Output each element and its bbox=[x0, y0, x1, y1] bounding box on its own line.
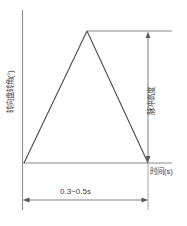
pulse-duration-label: 0.3~0.5s bbox=[60, 188, 91, 196]
pulse-height-arrow-up bbox=[146, 32, 151, 39]
pulse-input-diagram: 转向盘转角(°) 脉冲高度 时间(s) 0.3~0.5s bbox=[0, 0, 187, 226]
diagram-canvas bbox=[0, 0, 187, 226]
pulse-height-label: 脉冲高度 bbox=[148, 75, 156, 127]
y-axis-label: 转向盘转角(°) bbox=[7, 54, 15, 130]
pulse-falling-edge bbox=[87, 31, 148, 163]
x-axis-label: 时间(s) bbox=[150, 168, 173, 176]
pulse-rising-edge bbox=[24, 31, 87, 163]
duration-arrow-right bbox=[142, 198, 149, 203]
duration-arrow-left bbox=[23, 198, 30, 203]
